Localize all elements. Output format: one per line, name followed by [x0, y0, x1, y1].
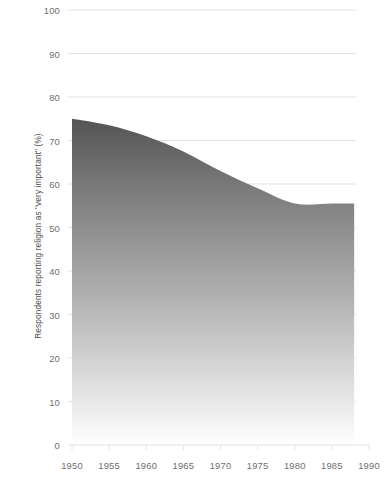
x-axis-line-and-ticks — [72, 445, 369, 450]
area-series — [72, 119, 354, 445]
